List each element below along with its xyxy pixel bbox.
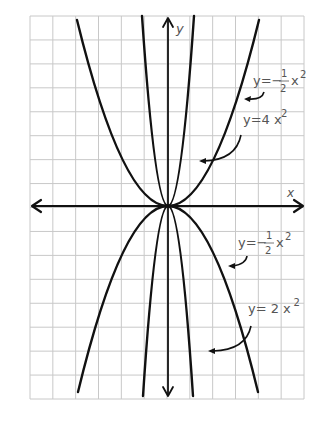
fraction-numerator: 1: [281, 68, 287, 79]
equation-exponent: 2: [285, 231, 291, 242]
equation-exponent: 2: [300, 69, 306, 80]
equation-variable: x: [291, 73, 299, 88]
equation-variable: x: [276, 235, 284, 250]
equation-label-lbl3: y=−: [238, 235, 267, 250]
x-axis-label: x: [286, 186, 295, 200]
equation-label-lbl4: y= 2 x: [248, 301, 291, 316]
equation-label-lbl2: y=4 x: [243, 112, 282, 127]
y-axis-label: y: [175, 21, 184, 36]
fraction-denominator: 2: [280, 83, 286, 94]
equation-exponent: 2: [294, 297, 300, 308]
equation-label-lbl1: y=−: [253, 73, 282, 88]
equation-exponent: 2: [281, 108, 287, 119]
fraction-denominator: 2: [265, 245, 271, 256]
fraction-numerator: 1: [266, 230, 272, 241]
parabola-chart: x y y=−12x2y=4 x2y=−12x2y= 2 x2: [0, 0, 317, 424]
